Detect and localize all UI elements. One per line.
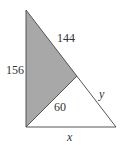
shaded-triangle bbox=[26, 10, 77, 127]
triangle-diagram: 156 144 60 y x bbox=[0, 0, 123, 145]
label-lower-hypotenuse: y bbox=[98, 87, 105, 101]
label-inner-segment: 60 bbox=[54, 100, 66, 114]
label-upper-hypotenuse: 144 bbox=[57, 31, 75, 45]
label-base: x bbox=[66, 130, 73, 144]
label-left-side: 156 bbox=[6, 63, 24, 77]
